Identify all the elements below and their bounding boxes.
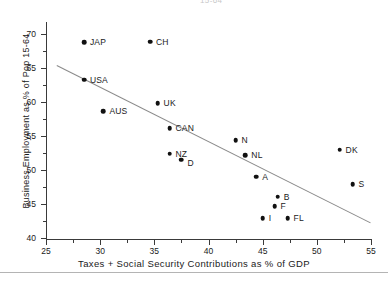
y-axis-label: Business Employment as % of Pop 15-64 — [21, 11, 31, 231]
x-tick — [317, 240, 318, 245]
x-tick-label: 50 — [305, 246, 329, 256]
data-point-label: S — [359, 179, 365, 189]
x-tick — [154, 240, 155, 245]
x-minor-tick — [290, 240, 291, 243]
x-tick-label: 55 — [359, 246, 383, 256]
x-minor-tick — [73, 240, 74, 243]
data-point-label: I — [269, 213, 272, 223]
data-point-label: CH — [156, 37, 169, 47]
data-point-label: FL — [294, 213, 304, 223]
x-tick — [209, 240, 210, 245]
x-tick-label: 35 — [142, 246, 166, 256]
y-tick-label: 70 — [14, 29, 36, 39]
data-point-label: F — [281, 201, 286, 211]
x-tick-label: 30 — [88, 246, 112, 256]
x-tick-label: 25 — [34, 246, 58, 256]
y-tick-label: 40 — [14, 233, 36, 243]
data-point-label: USA — [90, 75, 108, 85]
data-point-label: B — [284, 192, 290, 202]
data-point — [276, 194, 281, 199]
data-point — [179, 158, 184, 163]
scatter-chart: 15-64 Business Employment as % of Pop 15… — [0, 0, 388, 281]
x-tick-label: 40 — [197, 246, 221, 256]
plot-area: JAPCHUSAUKAUSCANNDKNZNLDASBFIFL — [46, 24, 371, 238]
clipped-title-fragment: 15-64 — [200, 0, 370, 5]
y-tick — [41, 238, 46, 239]
data-point-label: DK — [346, 145, 358, 155]
y-tick-label: 50 — [14, 165, 36, 175]
x-minor-tick — [127, 240, 128, 243]
data-point — [260, 216, 265, 221]
x-tick-label: 45 — [251, 246, 275, 256]
trend-line — [56, 65, 371, 224]
x-minor-tick — [181, 240, 182, 243]
y-tick-label: 55 — [14, 131, 36, 141]
data-point — [167, 126, 172, 131]
y-tick-label: 45 — [14, 199, 36, 209]
data-point-label: N — [242, 135, 248, 145]
y-tick-label: 60 — [14, 97, 36, 107]
data-point-label: A — [262, 172, 268, 182]
data-point — [285, 216, 290, 221]
x-tick — [100, 240, 101, 245]
data-point — [254, 175, 259, 180]
data-point — [148, 39, 153, 44]
data-point — [155, 101, 160, 106]
x-tick — [263, 240, 264, 245]
data-point-label: NL — [251, 150, 262, 160]
data-point-label: JAP — [90, 37, 106, 47]
data-point-label: D — [187, 158, 193, 168]
data-point-label: CAN — [176, 123, 195, 133]
y-tick-label: 65 — [14, 63, 36, 73]
data-point — [167, 151, 172, 156]
data-point — [243, 153, 248, 158]
data-point — [82, 40, 87, 45]
data-point — [82, 77, 87, 82]
x-tick — [371, 240, 372, 245]
data-point — [233, 138, 238, 143]
data-point — [272, 204, 277, 209]
x-minor-tick — [236, 240, 237, 243]
footer-divider — [0, 272, 388, 273]
data-point-label: AUS — [109, 106, 127, 116]
data-point — [350, 182, 355, 187]
x-axis-label: Taxes + Social Security Contributions as… — [0, 258, 388, 269]
x-minor-tick — [344, 240, 345, 243]
x-tick — [46, 240, 47, 245]
data-point — [101, 109, 106, 114]
data-point — [337, 147, 342, 152]
data-point-label: UK — [164, 98, 176, 108]
